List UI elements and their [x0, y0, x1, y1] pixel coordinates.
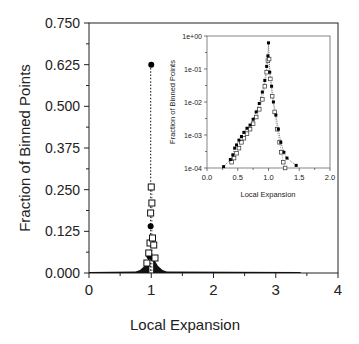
- baseline-density: [89, 255, 301, 273]
- inset-point-square: [245, 132, 249, 136]
- main-y-axis: 0.0000.1250.2500.3750.5000.6250.750: [45, 15, 89, 281]
- inset-point-filled: [266, 54, 269, 57]
- data-point-circle: [148, 223, 154, 229]
- data-point-square: [149, 200, 155, 206]
- inset-point-filled: [295, 164, 298, 167]
- inset-point-filled: [279, 141, 282, 144]
- inset-point-square: [248, 127, 252, 131]
- main-x-axis: 01234: [85, 273, 342, 298]
- inset-point-square: [263, 84, 267, 88]
- inset-point-filled: [229, 158, 232, 161]
- x-tick-label: 1: [147, 281, 155, 298]
- inset-point-square: [283, 166, 287, 170]
- inset-y-tick-label: 1e+00: [182, 33, 202, 40]
- x-tick-label: 2: [209, 281, 217, 298]
- inset-point-square: [232, 156, 236, 160]
- data-point-square: [148, 210, 154, 216]
- x-tick-label: 3: [272, 281, 280, 298]
- data-point-square: [146, 250, 152, 256]
- y-tick-label: 0.375: [45, 140, 80, 156]
- data-point-circle: [148, 62, 154, 68]
- inset-point-filled: [272, 101, 275, 104]
- inset-series: [222, 41, 298, 169]
- chart-figure: 0.0000.1250.2500.3750.5000.6250.750 0123…: [0, 0, 359, 344]
- inset-point-square: [267, 57, 271, 61]
- inset-point-square: [235, 151, 239, 155]
- inset-point-filled: [249, 124, 252, 127]
- inset-point-filled: [261, 91, 264, 94]
- y-tick-label: 0.250: [45, 182, 80, 198]
- inset-y-axis-label: Fraction of Binned Points: [168, 60, 177, 144]
- y-tick-label: 0.125: [45, 223, 80, 239]
- inset-point-square: [254, 115, 258, 119]
- inset-point-filled: [277, 128, 280, 131]
- chart-svg: 0.0000.1250.2500.3750.5000.6250.750 0123…: [0, 0, 359, 344]
- inset-point-square: [261, 98, 265, 102]
- data-point-square: [151, 242, 157, 248]
- inset-point-filled: [268, 71, 271, 74]
- inset-x-tick-label: 0.5: [233, 173, 243, 182]
- inset-y-tick-label: 1e-04: [184, 165, 202, 172]
- inset-point-filled: [240, 135, 243, 138]
- inset-y-tick-label: 1e-01: [184, 66, 202, 73]
- inset-point-filled: [274, 114, 277, 117]
- inset-point-filled: [267, 41, 270, 44]
- inset-point-filled: [222, 165, 225, 168]
- data-point-square: [152, 255, 158, 261]
- x-tick-label: 0: [85, 281, 93, 298]
- y-tick-label: 0.500: [45, 98, 80, 114]
- inset-x-tick-label: 0.0: [202, 173, 212, 182]
- inset-point-square: [281, 160, 285, 164]
- inset-y-axis: 1e-041e-031e-021e-011e+00: [182, 33, 207, 172]
- inset-point-filled: [233, 147, 236, 150]
- main-x-axis-label: Local Expansion: [130, 316, 240, 333]
- inset-point-square: [265, 70, 269, 74]
- inset-point-filled: [258, 102, 261, 105]
- inset-point-filled: [282, 151, 285, 154]
- inset-point-filled: [263, 79, 266, 82]
- main-plot-frame: [89, 23, 338, 273]
- inset-point-filled: [245, 127, 248, 130]
- inset-point-filled: [255, 110, 258, 113]
- inset-point-filled: [231, 153, 234, 156]
- inset-point-filled: [252, 118, 255, 121]
- inset-x-tick-label: 1.5: [294, 173, 304, 182]
- inset-x-tick-label: 2.0: [325, 173, 335, 182]
- inset-y-tick-label: 1e-03: [184, 132, 202, 139]
- x-tick-label: 4: [334, 281, 342, 298]
- inset-point-filled: [235, 143, 238, 146]
- y-tick-label: 0.625: [45, 57, 80, 73]
- inset-point-filled: [237, 139, 240, 142]
- data-point-square: [149, 235, 155, 241]
- inset-point-filled: [265, 65, 268, 68]
- inset-point-filled: [242, 131, 245, 134]
- inset-x-axis: 0.00.51.01.52.0: [202, 168, 335, 182]
- y-tick-label: 0.000: [45, 265, 80, 281]
- inset-point-square: [270, 94, 274, 98]
- y-tick-label: 0.750: [45, 15, 80, 31]
- inset-point-filled: [285, 157, 288, 160]
- inset-x-tick-label: 1.0: [263, 173, 273, 182]
- inset-point-square: [273, 110, 277, 114]
- inset-point-filled: [270, 85, 273, 88]
- inset-point-square: [251, 122, 255, 126]
- inset-plot: 1e-041e-031e-021e-011e+00 0.00.51.01.52.…: [168, 33, 335, 200]
- data-point-square: [148, 184, 154, 190]
- inset-point-square: [257, 108, 261, 112]
- inset-point-square: [237, 146, 241, 150]
- data-point-square: [144, 260, 150, 266]
- inset-point-square: [269, 77, 273, 81]
- inset-x-axis-label: Local Expansion: [240, 190, 295, 199]
- inset-series-line: [232, 59, 286, 168]
- main-y-axis-label: Fraction of Binned Points: [16, 64, 33, 232]
- inset-y-tick-label: 1e-02: [184, 99, 202, 106]
